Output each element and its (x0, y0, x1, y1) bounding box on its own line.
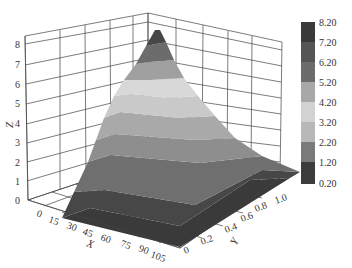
x-tick: 105 (149, 249, 167, 264)
x-tick: 15 (47, 214, 60, 228)
x-tick: 90 (137, 243, 150, 257)
colorbar-tick: 3.20 (319, 117, 337, 128)
x-axis-label: X (84, 236, 97, 250)
y-tick: 0.4 (223, 220, 239, 235)
y-tick: 0.2 (199, 232, 215, 247)
y-tick: 1.0 (273, 191, 289, 206)
z-axis-label: Z (3, 121, 15, 128)
y-tick: 0.6 (239, 209, 255, 224)
colorbar-tick: 1.20 (319, 157, 337, 168)
z-tick: 7 (15, 59, 20, 70)
z-tick: 0 (15, 195, 20, 206)
colorbar-tick: 2.20 (319, 137, 337, 148)
z-axis-ticks: 0 1 2 3 4 5 6 7 8 Z (3, 39, 20, 206)
x-tick: 0 (35, 208, 43, 220)
y-axis-label: Y (227, 234, 241, 247)
colorbar-tick: 0.20 (319, 178, 337, 189)
x-tick: 30 (65, 220, 78, 234)
x-tick: 75 (119, 238, 132, 252)
z-tick: 5 (15, 98, 20, 109)
surface-chart: 0 1 2 3 4 5 6 7 8 Z 0 15 30 45 60 75 90 … (0, 0, 352, 268)
colorbar-tick: 7.20 (319, 37, 337, 48)
colorbar-tick: 4.20 (319, 97, 337, 108)
z-tick: 6 (15, 79, 20, 90)
x-tick: 60 (99, 232, 112, 246)
colorbar-tick: 6.20 (319, 57, 337, 68)
z-tick: 1 (15, 176, 20, 187)
y-tick: 0.8 (253, 199, 269, 214)
z-tick: 3 (15, 137, 20, 148)
colorbar: 8.20 7.20 6.20 5.20 4.20 3.20 2.20 1.20 … (301, 17, 337, 189)
y-tick: 0 (182, 244, 190, 256)
colorbar-tick: 5.20 (319, 77, 337, 88)
z-tick: 8 (15, 39, 20, 50)
z-tick: 2 (15, 157, 20, 168)
z-tick: 4 (15, 118, 20, 129)
colorbar-tick: 8.20 (319, 17, 337, 28)
